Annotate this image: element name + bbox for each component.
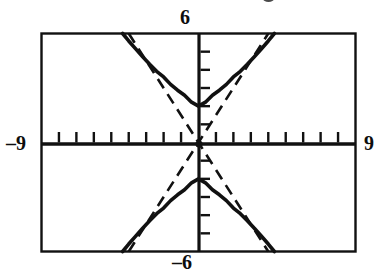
plot-canvas (0, 0, 381, 280)
y-axis-max-label: 6 (180, 7, 190, 27)
y-axis-min-label: –6 (172, 252, 192, 272)
x-axis-min-label: –9 (6, 133, 26, 153)
origin-marker (195, 140, 202, 147)
x-axis-max-label: 9 (364, 133, 374, 153)
hyperbola-figure: 6 –6 –9 9 (0, 0, 381, 280)
